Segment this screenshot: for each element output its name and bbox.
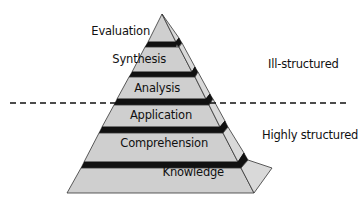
level-front-face xyxy=(67,168,254,193)
region-label-ill-structured: Ill-structured xyxy=(268,57,339,71)
level-label-knowledge: Knowledge xyxy=(163,165,224,179)
level-label-synthesis: Synthesis xyxy=(112,52,166,66)
level-evaluation xyxy=(145,14,182,47)
region-label-highly-structured: Highly structured xyxy=(262,128,358,142)
level-label-analysis: Analysis xyxy=(134,81,180,95)
level-label-application: Application xyxy=(130,108,192,122)
level-label-comprehension: Comprehension xyxy=(120,136,208,150)
level-label-evaluation: Evaluation xyxy=(91,24,150,38)
bloom-taxonomy-pyramid-diagram: Evaluation Synthesis Analysis Applicatio… xyxy=(0,0,358,204)
